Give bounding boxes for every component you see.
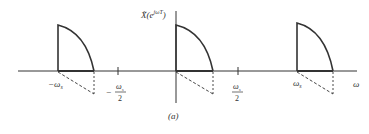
svg-text:2: 2 [235,94,239,103]
spectrum-copy-neg-ws [58,25,94,94]
spectrum-diagram: X̃(ejωT) ω −ωs − ωs 2 ωs 2 ωs (a) [0,0,369,134]
svg-text:ωs: ωs [116,82,124,92]
svg-text:−: − [106,87,111,97]
tick-label-neg-ws-half: − ωs 2 [106,82,126,103]
frequency-axis-label: ω [353,79,359,89]
svg-text:ωs: ωs [233,82,241,92]
svg-text:2: 2 [118,94,122,103]
tick-label-neg-ws: −ωs [48,79,63,90]
figure-caption: (a) [168,111,179,121]
spectrum-copy-baseband [176,25,213,94]
tick-label-pos-ws: ωs [293,78,302,89]
spectrum-copy-pos-ws [297,23,333,94]
magnitude-axis-label: X̃(ejωT) [140,9,166,20]
tick-label-pos-ws-half: ωs 2 [232,82,243,103]
